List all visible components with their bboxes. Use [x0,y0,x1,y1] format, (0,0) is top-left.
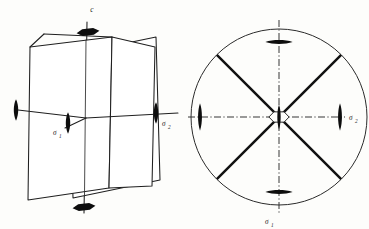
label-sigma2-base: σ [162,120,166,128]
figure-canvas: c σ 1 σ 2 [0,0,369,229]
label-proj-sigma2-subscript: 2 [355,118,358,124]
label-sigma1-subscript: 1 [59,133,62,139]
label-proj-sigma1-subscript: 1 [271,222,274,228]
label-sigma1-base: σ [53,129,57,137]
label-proj-sigma2-base: σ [349,114,353,122]
label-proj-sigma1-base: σ [265,218,269,226]
mirror-plane-right-wing [109,37,155,188]
symmetry-figure: c σ 1 σ 2 [0,0,369,229]
mirror-plane-front [28,37,112,200]
label-sigma2-subscript: 2 [168,124,171,130]
